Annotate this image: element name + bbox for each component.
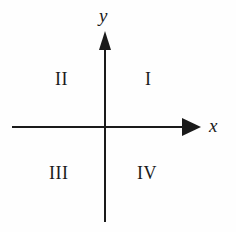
- quadrant-label-iv: IV: [137, 164, 157, 182]
- x-axis-label: x: [209, 116, 217, 135]
- quadrant-label-iii: III: [49, 164, 68, 182]
- x-axis-line: [12, 126, 188, 128]
- coordinate-plane-diagram: x y I II III IV: [0, 0, 236, 232]
- arrow-up-icon: [99, 31, 111, 50]
- y-axis-line: [104, 44, 106, 222]
- arrow-right-icon: [182, 118, 201, 136]
- y-axis-label: y: [99, 6, 107, 25]
- quadrant-label-i: I: [145, 70, 152, 88]
- quadrant-label-ii: II: [55, 70, 68, 88]
